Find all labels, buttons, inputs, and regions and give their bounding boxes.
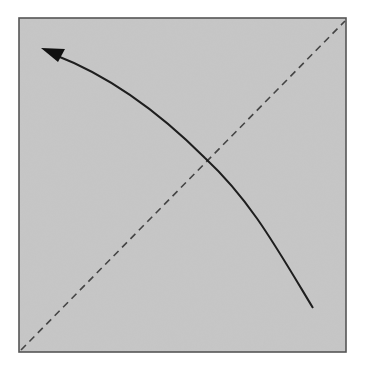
diagram-canvas xyxy=(0,0,365,367)
